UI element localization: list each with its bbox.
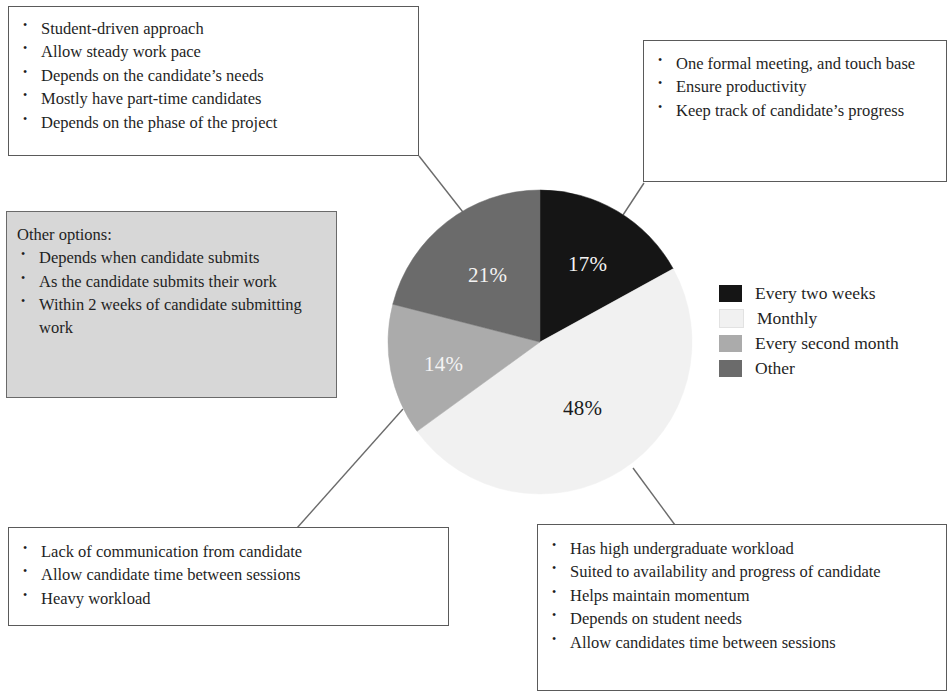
leader-line-top-left — [419, 156, 466, 216]
pie-label-every-second-month: 14% — [424, 352, 463, 377]
callout-list-item: Has high undergraduate workload — [544, 538, 940, 560]
callout-list-bottom-left: Lack of communication from candidateAllo… — [15, 541, 442, 610]
callout-list-item: As the candidate submits their work — [15, 271, 330, 293]
legend-swatch-icon — [719, 360, 742, 377]
callout-list-item: Helps maintain momentum — [544, 585, 940, 607]
callout-list-item: Depends when candidate submits — [15, 247, 330, 269]
callout-box-other-options: Other options: Depends when candidate su… — [6, 211, 337, 398]
leader-line-top-right — [623, 183, 644, 215]
callout-list-item: Depends on the candidate’s needs — [15, 65, 412, 87]
pie-label-every-two-weeks: 17% — [568, 252, 607, 277]
legend-item: Every second month — [719, 331, 899, 356]
other-options-heading: Other options: — [15, 224, 330, 246]
callout-list-bottom-right: Has high undergraduate workloadSuited to… — [544, 538, 940, 654]
callout-list-other-options: Depends when candidate submitsAs the can… — [15, 247, 330, 339]
callout-list-item: Depends on student needs — [544, 608, 940, 630]
pie-label-other: 21% — [468, 263, 507, 288]
callout-box-top-left: Student-driven approachAllow steady work… — [8, 6, 419, 156]
legend-label: Every two weeks — [755, 285, 876, 303]
callout-box-bottom-left: Lack of communication from candidateAllo… — [8, 527, 449, 626]
callout-list-item: Allow candidates time between sessions — [544, 632, 940, 654]
callout-list-item: Lack of communication from candidate — [15, 541, 442, 563]
callout-list-item: Mostly have part-time candidates — [15, 88, 412, 110]
callout-list-item: Depends on the phase of the project — [15, 112, 412, 134]
callout-list-item: Allow candidate time between sessions — [15, 564, 442, 586]
callout-list-top-left: Student-driven approachAllow steady work… — [15, 18, 412, 134]
callout-box-top-right: One formal meeting, and touch baseEnsure… — [643, 40, 947, 182]
leader-line-bottom-right — [633, 468, 675, 525]
legend-swatch-icon — [719, 285, 742, 302]
callout-box-bottom-right: Has high undergraduate workloadSuited to… — [537, 524, 947, 691]
callout-list-item: Ensure productivity — [650, 76, 940, 98]
figure-canvas: 17% 48% 14% 21% Every two weeksMonthlyEv… — [0, 0, 947, 691]
legend-item: Monthly — [719, 306, 899, 331]
legend-label: Other — [755, 360, 795, 378]
callout-list-item: Allow steady work pace — [15, 41, 412, 63]
callout-list-item: Keep track of candidate’s progress — [650, 100, 940, 122]
legend-item: Every two weeks — [719, 281, 899, 306]
callout-list-item: One formal meeting, and touch base — [650, 53, 940, 75]
callout-list-top-right: One formal meeting, and touch baseEnsure… — [650, 53, 940, 122]
callout-list-item: Heavy workload — [15, 588, 442, 610]
callout-list-item: Within 2 weeks of candidate submitting w… — [15, 294, 330, 339]
legend-swatch-icon — [719, 335, 742, 352]
leader-line-bottom-left — [297, 409, 403, 528]
legend-swatch-icon — [719, 309, 744, 328]
callout-list-item: Student-driven approach — [15, 18, 412, 40]
legend-label: Monthly — [757, 310, 817, 328]
legend-label: Every second month — [755, 335, 899, 353]
chart-legend: Every two weeksMonthlyEvery second month… — [719, 281, 899, 381]
pie-label-monthly: 48% — [563, 396, 602, 421]
legend-item: Other — [719, 356, 899, 381]
callout-list-item: Suited to availability and progress of c… — [544, 561, 940, 583]
